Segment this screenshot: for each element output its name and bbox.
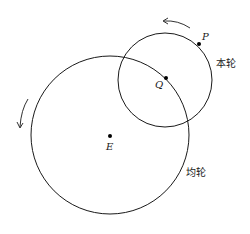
point-Q: [164, 76, 168, 80]
label-deferent: 均轮: [186, 164, 206, 179]
label-epicycle: 本轮: [216, 55, 236, 70]
label-Q: Q: [155, 79, 163, 90]
label-E: E: [106, 141, 113, 152]
label-P: P: [202, 31, 209, 42]
point-P: [197, 42, 201, 46]
epicycle-diagram: P Q E 本轮 均轮: [0, 0, 250, 234]
epicycle-circle: [118, 33, 212, 127]
epicycle-rotation-arrow-icon: [164, 21, 190, 28]
deferent-rotation-arrow-icon: [20, 99, 28, 127]
point-E: [108, 134, 112, 138]
diagram-graphics: [0, 0, 250, 234]
